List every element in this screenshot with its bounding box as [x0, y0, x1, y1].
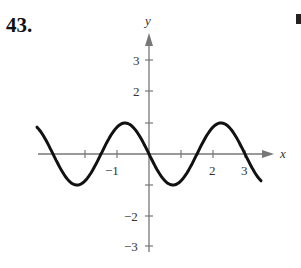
y-tick-label: 3	[133, 53, 140, 68]
y-tick-label: −3	[124, 239, 138, 254]
y-tick-label: 2	[133, 84, 140, 99]
x-axis-label: x	[279, 146, 286, 161]
y-axis-label: y	[143, 13, 151, 28]
x-tick-label: 2	[209, 163, 216, 178]
y-axis-arrow-icon	[145, 33, 153, 46]
y-tick-label: −2	[124, 209, 138, 224]
x-tick-label: 3	[241, 163, 248, 178]
x-axis-arrow-icon	[262, 150, 274, 158]
chart: −1 2 3 x 3 2 −2 −3 y	[0, 0, 301, 268]
x-tick-label: −1	[105, 163, 119, 178]
